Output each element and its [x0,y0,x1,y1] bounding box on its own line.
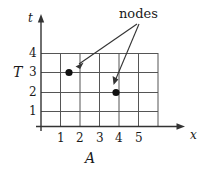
grid-vertical-lines [61,53,159,126]
vertical-axis-arrowhead [38,14,44,23]
y-tick-label-2: 2 [29,86,37,98]
x-tick-label-3: 3 [96,132,104,144]
y-tick-label-1: 1 [29,105,37,117]
x-tick-label-1: 1 [57,132,65,144]
vertical-axis-secondary-label: T [13,65,22,79]
node-1-dot[interactable] [65,69,72,76]
horizontal-axis [36,123,185,129]
nodes-arrow-2-head [113,76,119,85]
x-tick-label-4: 4 [115,132,123,144]
annotation-arrows [76,24,140,85]
vertical-axis-label: t [28,12,33,24]
horizontal-axis-label: x [190,129,197,141]
nodes-arrow-1-shaft [79,24,137,64]
horizontal-axis-arrowhead [177,123,186,129]
nodes-annotation-label: nodes [119,7,158,20]
figure-container: t T 1 2 3 4 x A 1 2 3 4 5 nodes [0,0,213,172]
y-tick-label-3: 3 [29,66,37,78]
horizontal-axis-secondary-label: A [85,151,95,165]
x-tick-label-2: 2 [76,132,84,144]
y-tick-label-4: 4 [29,47,37,59]
node-2-dot[interactable] [112,89,119,96]
x-tick-label-5: 5 [135,132,143,144]
